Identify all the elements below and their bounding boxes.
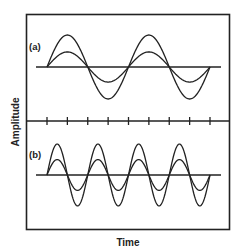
panel-a: (a)	[29, 35, 221, 99]
panel-b: (b)	[29, 144, 221, 206]
x-axis-label: Time	[116, 237, 140, 248]
panel-label-a: (a)	[29, 41, 41, 52]
panel-label-b: (b)	[29, 149, 41, 160]
wave-diagram: (a) (b) Amplitude Time	[0, 0, 242, 251]
y-axis-label: Amplitude	[10, 97, 21, 146]
